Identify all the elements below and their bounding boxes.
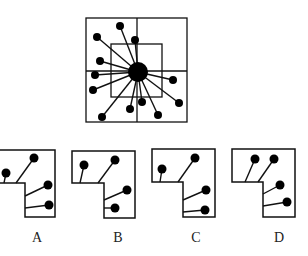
dot bbox=[93, 33, 101, 41]
dot bbox=[111, 156, 120, 165]
dot bbox=[131, 36, 139, 44]
dot bbox=[158, 165, 167, 174]
dot bbox=[2, 169, 11, 178]
dot bbox=[154, 111, 162, 119]
l-shape-outline bbox=[232, 149, 295, 217]
dot bbox=[116, 22, 124, 30]
dot bbox=[191, 154, 200, 163]
dot bbox=[96, 57, 104, 65]
dot bbox=[45, 201, 54, 210]
dot bbox=[111, 204, 120, 213]
dot bbox=[98, 113, 106, 121]
dot bbox=[89, 86, 97, 94]
option-label-c[interactable]: C bbox=[191, 230, 200, 246]
hub-circle bbox=[128, 62, 148, 82]
dot bbox=[202, 186, 211, 195]
option-d[interactable] bbox=[232, 149, 295, 217]
dot bbox=[80, 161, 89, 170]
l-shape-outline bbox=[72, 151, 135, 218]
answer-options bbox=[0, 149, 295, 218]
dot bbox=[175, 99, 183, 107]
dot bbox=[251, 155, 260, 164]
dot bbox=[44, 181, 53, 190]
dot bbox=[123, 186, 132, 195]
dot bbox=[91, 71, 99, 79]
question-figure bbox=[86, 18, 187, 122]
option-a[interactable] bbox=[0, 150, 55, 217]
dot bbox=[270, 155, 279, 164]
dot bbox=[169, 76, 177, 84]
option-b[interactable] bbox=[72, 151, 135, 218]
dot bbox=[201, 206, 210, 215]
dot bbox=[276, 181, 285, 190]
option-label-a[interactable]: A bbox=[32, 230, 42, 246]
dot bbox=[30, 154, 39, 163]
option-label-d[interactable]: D bbox=[274, 230, 284, 246]
stick-line bbox=[16, 158, 34, 183]
dot bbox=[283, 198, 292, 207]
dot bbox=[138, 98, 146, 106]
dot bbox=[126, 105, 134, 113]
diagram-canvas bbox=[0, 0, 308, 256]
option-c[interactable] bbox=[152, 149, 215, 217]
option-label-b[interactable]: B bbox=[113, 230, 122, 246]
